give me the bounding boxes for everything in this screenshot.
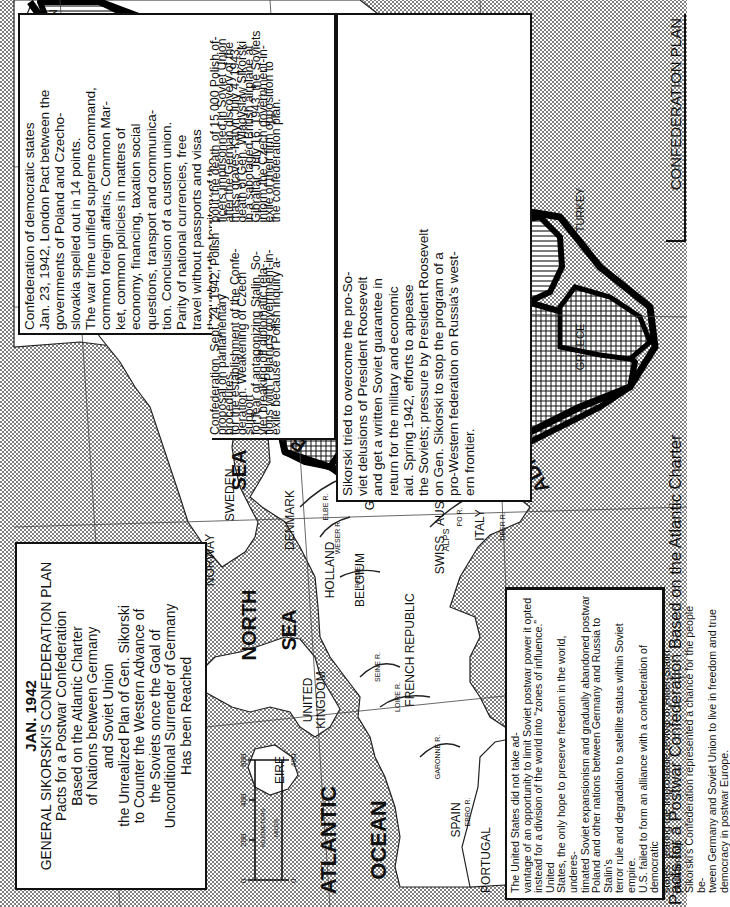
label-atlantic: ATLANTIC: [316, 786, 341, 894]
title-line: the Unrealized Plan of Gen. Sikorski: [117, 544, 133, 888]
text-line: democracy in postwar Europe.: [719, 595, 730, 893]
label-greece: GREECE: [574, 324, 586, 370]
caption-bottom-left: Pacts for a Postwar Confederation Based …: [664, 465, 686, 905]
label-ocean: OCEAN: [366, 800, 391, 879]
text-line: on Gen. Sikorski to stop the program of …: [431, 19, 446, 496]
text-line: Sikorski's Confederation represented a c…: [684, 595, 707, 893]
scale-mi-400: 400: [289, 753, 298, 767]
label-eire: EIRE: [273, 756, 287, 784]
label-river-rhine: RHINE: [354, 566, 361, 588]
text-line: Sikorski tried to overcome the pro-So-: [340, 19, 355, 496]
label-river-elbe: ELBE R.: [322, 494, 329, 521]
label-alps: ALPS: [441, 528, 451, 551]
text-line: the confederation plan.: [273, 18, 280, 223]
label-french-republic: FRENCH REPUBLIC: [403, 593, 417, 707]
text-line: ern frontier.: [462, 19, 477, 496]
label-denmark: DENMARK: [283, 490, 297, 550]
text-line: governments of Poland and Czecho-: [52, 18, 67, 330]
text-line: Parity of national currencies, free: [174, 18, 189, 330]
title-line: to Counter the Western Advance of: [132, 544, 148, 888]
text-line: travel without passports and visas: [189, 18, 204, 330]
text-line: tween Germany and Soviet Union to live i…: [707, 595, 719, 893]
label-sweden: SWEDEN: [223, 469, 237, 522]
text-line: Poland and other nations between Germany…: [591, 595, 614, 893]
text-line: aid. Spring 1942, efforts to appease: [401, 19, 416, 496]
text-line: slovakia spelled out in 14 points.: [68, 18, 83, 330]
text-line: Confederation of democratic states: [22, 18, 37, 330]
text-line: ket, common policies in matters of: [113, 18, 128, 330]
title-line: Unconditional Surrender of Germany: [163, 544, 179, 888]
scale-km-label: KILOMETERS: [260, 808, 266, 847]
text-line: and get a written Soviet guarantee in: [370, 19, 385, 496]
us-policy-text-box: The United States did not take ad- vanta…: [505, 587, 665, 900]
title-line: of Nations between Germany: [85, 544, 101, 888]
label-north-sea-1: NORTH: [238, 589, 260, 660]
text-line: common foreign affairs, Common Mar-: [98, 18, 113, 330]
text-line: pro-Western federation on Russia's west-: [446, 19, 461, 496]
confederation-text-box: Confederation of democratic states Jan. …: [18, 13, 214, 335]
label-river-tiber: TIBER R.: [499, 512, 506, 542]
label-portugal: PORTUGAL: [479, 827, 493, 893]
text-line: States, the only hope to preserve freedo…: [556, 595, 579, 893]
text-line: return for the military and economic: [386, 19, 401, 496]
text-line: exile because of Polish inquiry a-: [273, 231, 280, 436]
label-river-loire: LOIRE R.: [394, 682, 401, 712]
label-river-seine: SEINE R.: [374, 652, 381, 682]
text-line: economy, financing, taxation social: [128, 18, 143, 330]
title-line: Based on the Atlantic Charter: [70, 544, 86, 888]
label-river-po: PO R.: [456, 507, 463, 526]
text-line: the Soviets; pressure by President Roose…: [416, 19, 431, 496]
title-line: GENERAL SIKORSKI'S CONFEDERATION PLAN: [39, 544, 55, 888]
text-line: questions, transport and communica-: [144, 18, 159, 330]
title-date: JAN. 1942: [23, 544, 39, 888]
title-line: the Soviets once the Goal of: [148, 544, 164, 888]
scale-mi-label: MILES: [273, 819, 279, 837]
label-river-garonne: GARONNE R.: [434, 735, 441, 779]
label-river-weser: WESER R.: [334, 520, 341, 555]
label-united-kingdom: UNITEDKINGDOM: [301, 671, 328, 728]
scale-km-600: 600: [239, 753, 248, 767]
text-line: viet delusions of President Roosevelt: [355, 19, 370, 496]
text-line: terror rule and degradation to satellite…: [614, 595, 637, 893]
label-river-ebro: EBRO R.: [464, 798, 471, 827]
title-line: Pacts for a Postwar Confederation: [54, 544, 70, 888]
title-box: JAN. 1942 GENERAL SIKORSKI'S CONFEDERATI…: [15, 542, 207, 890]
scale-km-400: 400: [239, 793, 248, 807]
text-line: Jan. 23, 1942, London Pact between the: [37, 18, 52, 330]
text-line: instead for a division of the world into…: [533, 595, 556, 893]
label-spain: SPAIN: [449, 802, 463, 837]
label-turkey: TURKEY: [574, 187, 586, 232]
text-line: The war time unified supreme command,: [83, 18, 98, 330]
scale-km-200: 200: [239, 833, 248, 847]
text-line: U.S. failed to form an alliance with a c…: [638, 595, 661, 893]
scale-km-0: 0: [239, 878, 248, 883]
sikorski-text-box: Sikorski tried to overcome the pro-So- v…: [336, 13, 532, 502]
title-line: Has been Reached: [179, 544, 195, 888]
title-line: and Soviet Union: [101, 544, 117, 888]
confederation-text-lower: Confederation. Sept. 24, 1942, Polish pr…: [212, 13, 336, 440]
caption-bottom-right: CONFEDERATION PLAN: [666, 14, 686, 242]
text-line: The United States did not take ad-: [510, 595, 522, 893]
label-italy: ITALY: [473, 509, 487, 541]
scale-mi-0: 0: [289, 878, 298, 883]
label-north-sea-2: SEA: [278, 609, 300, 650]
text-line: tion. Conclusion of a custom union.: [159, 18, 174, 330]
